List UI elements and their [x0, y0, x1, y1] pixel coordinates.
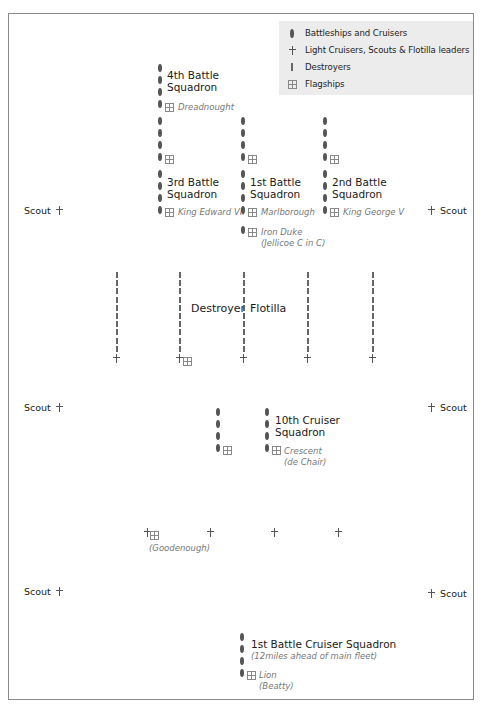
battleship-oval-icon: [241, 226, 245, 234]
destroyer-dash-icon: [307, 346, 309, 352]
destroyer-dash-icon: [179, 313, 181, 319]
flagship-grid-icon: [165, 208, 174, 217]
destroyer-dash-icon: [179, 288, 181, 294]
battleship-oval-icon: [323, 141, 327, 149]
flagship-name-crescent: Crescent(de Chair): [284, 446, 326, 468]
battleship-oval-icon: [158, 129, 162, 137]
battleship-oval-icon: [241, 129, 245, 137]
battleship-oval-icon: [323, 129, 327, 137]
destroyer-dash-icon: [307, 288, 309, 294]
squadron-label-1st-battle-cruiser: 1st Battle Cruiser Squadron: [251, 638, 396, 650]
legend-item-flagships: Flagships: [279, 76, 344, 92]
light-cruiser-cross-icon: [112, 354, 121, 363]
flagship-grid-icon: [330, 155, 339, 164]
destroyer-dash-icon: [372, 321, 374, 327]
destroyer-dash-icon: [116, 313, 118, 319]
scout-right-1: Scout: [427, 205, 467, 216]
battleship-oval-icon: [323, 182, 327, 190]
flagship-grid-icon: [272, 446, 281, 455]
destroyer-dash-icon: [372, 305, 374, 311]
destroyer-dash-icon: [179, 321, 181, 327]
scout-left-3: Scout: [24, 586, 64, 597]
flagship-grid-icon: [247, 671, 256, 680]
squadron-label-4th-battle: 4th BattleSquadron: [167, 69, 219, 93]
destroyer-dash-icon: [243, 338, 245, 344]
battleship-oval-icon: [158, 206, 162, 214]
flagship-grid-icon: [288, 80, 297, 89]
flotilla-label-flotilla: Flotilla: [250, 303, 286, 315]
destroyer-dash-icon: [116, 297, 118, 303]
battleship-oval-icon: [323, 117, 327, 125]
destroyer-dash-icon: [307, 297, 309, 303]
destroyer-dash-icon: [372, 272, 374, 278]
squadron-label-1st-battle: 1st BattleSquadron: [250, 176, 301, 200]
destroyer-dash-icon: [243, 288, 245, 294]
flagship-grid-icon: [223, 446, 232, 455]
flagship-grid-icon: [183, 357, 192, 366]
flagship-name-king-george-v: King George V: [343, 207, 404, 218]
scout-right-3: Scout: [427, 588, 467, 599]
destroyer-dash-icon: [243, 329, 245, 335]
destroyer-dash-icon: [179, 280, 181, 286]
destroyer-dash-icon: [116, 280, 118, 286]
flagship-name-marlborough: Marlborough: [261, 207, 315, 218]
destroyer-dash-icon: [179, 346, 181, 352]
light-cruiser-cross-icon: [270, 528, 279, 537]
destroyer-dash-icon: [243, 321, 245, 327]
battleship-oval-icon: [265, 432, 269, 440]
light-cruiser-cross-icon: [239, 354, 248, 363]
destroyer-dash-icon: [243, 297, 245, 303]
destroyer-dash-icon: [307, 338, 309, 344]
destroyer-dash-icon: [372, 346, 374, 352]
squadron-label-3rd-battle: 3rd BattleSquadron: [167, 176, 219, 200]
flagship-grid-icon: [165, 155, 174, 164]
destroyer-dash-icon: [116, 305, 118, 311]
squadron-note: (12miles ahead of main fleet): [251, 651, 377, 662]
battleship-oval-icon: [240, 657, 244, 665]
destroyer-dash-icon: [307, 321, 309, 327]
battleship-oval-icon: [290, 29, 294, 38]
battleship-oval-icon: [241, 141, 245, 149]
commander-goodenough: (Goodenough): [149, 543, 210, 554]
light-cruiser-cross-icon: [55, 403, 64, 412]
legend: Battleships and Cruisers Light Cruisers,…: [279, 21, 473, 95]
destroyer-dash-icon: [179, 338, 181, 344]
legend-item-light-cruisers: Light Cruisers, Scouts & Flotilla leader…: [279, 42, 469, 58]
light-cruiser-cross-icon: [427, 206, 436, 215]
battleship-oval-icon: [158, 194, 162, 202]
destroyer-dash-icon: [116, 321, 118, 327]
light-cruiser-cross-icon: [288, 46, 297, 55]
flagship-grid-icon: [150, 531, 159, 540]
battleship-oval-icon: [216, 444, 220, 452]
battleship-oval-icon: [241, 206, 245, 214]
battleship-oval-icon: [158, 100, 162, 108]
destroyer-dash-icon: [116, 338, 118, 344]
flagship-grid-icon: [330, 208, 339, 217]
destroyer-dash-icon: [307, 313, 309, 319]
battleship-oval-icon: [240, 645, 244, 653]
destroyer-dash-icon: [116, 329, 118, 335]
light-cruiser-cross-icon: [427, 589, 436, 598]
destroyer-dash-icon: [116, 272, 118, 278]
light-cruiser-cross-icon: [303, 354, 312, 363]
battleship-oval-icon: [240, 669, 244, 677]
light-cruiser-cross-icon: [368, 354, 377, 363]
battleship-oval-icon: [241, 153, 245, 161]
battleship-oval-icon: [216, 408, 220, 416]
destroyer-dash-icon: [307, 272, 309, 278]
scout-left-2: Scout: [24, 402, 64, 413]
light-cruiser-cross-icon: [55, 206, 64, 215]
destroyer-dash-icon: [179, 329, 181, 335]
battleship-oval-icon: [158, 141, 162, 149]
destroyer-dash-icon: [372, 329, 374, 335]
destroyer-dash-icon: [307, 329, 309, 335]
destroyer-dash-icon: [372, 288, 374, 294]
destroyer-dash-icon: [372, 313, 374, 319]
scout-left-1: Scout: [24, 205, 64, 216]
battleship-oval-icon: [265, 420, 269, 428]
battleship-oval-icon: [241, 194, 245, 202]
destroyer-dash-icon: [179, 297, 181, 303]
flagship-grid-icon: [248, 155, 257, 164]
battleship-oval-icon: [241, 182, 245, 190]
light-cruiser-cross-icon: [427, 403, 436, 412]
